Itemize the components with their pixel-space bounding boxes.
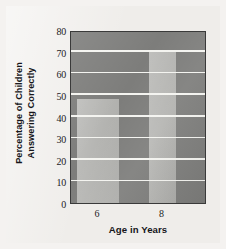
gridline-30 — [71, 137, 205, 139]
y-tick-80: 80 — [40, 26, 66, 37]
plot-area — [70, 31, 206, 204]
y-axis-title-line1: Percentage of Children — [14, 62, 24, 164]
x-tick-8: 8 — [142, 208, 182, 219]
gridline-60 — [71, 72, 205, 74]
y-tick-60: 60 — [40, 69, 66, 80]
gridline-50 — [71, 93, 205, 95]
gridline-10 — [71, 180, 205, 182]
y-tick-70: 70 — [40, 47, 66, 58]
gridline-40 — [71, 115, 205, 117]
y-axis-title-line2: Answering Correctly — [25, 62, 37, 164]
y-tick-40: 40 — [40, 112, 66, 123]
x-axis-title: Age in Years — [58, 224, 218, 235]
y-axis-title: Percentage of Children Answering Correct… — [10, 22, 40, 204]
y-axis-tick-labels: 01020304050607080 — [40, 26, 66, 209]
y-tick-50: 50 — [40, 90, 66, 101]
x-tick-6: 6 — [77, 208, 117, 219]
gridline-70 — [71, 50, 205, 52]
y-tick-20: 20 — [40, 155, 66, 166]
y-tick-0: 0 — [40, 199, 66, 210]
y-tick-10: 10 — [40, 177, 66, 188]
y-tick-30: 30 — [40, 134, 66, 145]
chart-figure: Percentage of Children Answering Correct… — [0, 0, 226, 249]
gridline-20 — [71, 158, 205, 160]
